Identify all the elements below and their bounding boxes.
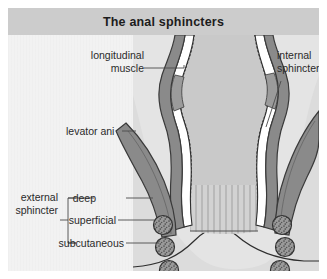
label-longitudinal-muscle-line2: muscle (111, 62, 144, 74)
page-title: The anal sphincters (103, 15, 224, 29)
label-subcutaneous: subcutaneous (28, 237, 124, 250)
label-longitudinal-muscle-line1: longitudinal (91, 49, 144, 61)
bundle-left-superficial (156, 238, 175, 257)
bundle-left-deep (154, 216, 173, 235)
label-superficial: superficial (38, 214, 116, 227)
anal-columns (190, 185, 258, 234)
figure-title-band: The anal sphincters (8, 8, 319, 35)
label-longitudinal-muscle: longitudinal muscle (68, 49, 144, 74)
label-internal-sphincter-line1: internal (277, 49, 311, 61)
longitudinal-muscle-fold-left (171, 75, 184, 111)
label-internal-sphincter: internal sphincter (277, 49, 319, 74)
longitudinal-muscle-fold-right (265, 73, 278, 109)
bundle-right-deep (273, 216, 292, 235)
label-internal-sphincter-line2: sphincter (277, 62, 319, 74)
figure-panel: The anal sphincters (8, 8, 319, 271)
anatomical-illustration (8, 35, 319, 271)
label-levator-ani: levator ani (66, 125, 114, 138)
bundle-right-superficial (276, 238, 295, 257)
label-deep: deep (52, 192, 96, 205)
